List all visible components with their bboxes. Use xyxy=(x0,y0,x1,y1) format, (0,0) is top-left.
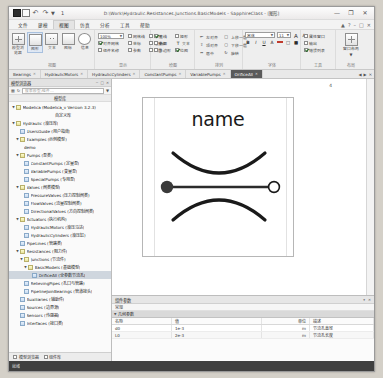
align-top[interactable]: ⇧ 顶对齐 xyxy=(198,41,218,48)
window-controls[interactable]: — ❐ ✕ xyxy=(333,8,372,18)
check-components[interactable]: 组件名称 xyxy=(98,47,124,53)
draw-options[interactable]: 直线 椭圆 多边形 xyxy=(153,32,172,53)
document-tab-strip[interactable]: Bearings ✕ HydraulicMotors ✕ HydraulicCy… xyxy=(9,70,374,79)
tab-modeling[interactable]: 建模 xyxy=(33,20,53,29)
border-button[interactable]: □ xyxy=(285,39,291,45)
bottom-tab-component-library[interactable]: 组件库 xyxy=(43,354,63,360)
tree-icon[interactable]: ▦ xyxy=(11,88,15,93)
chevron-down-icon[interactable]: ▼ xyxy=(51,9,57,17)
tab-simulation[interactable]: 仿真 xyxy=(75,20,95,29)
undo-icon[interactable]: ↶ xyxy=(31,9,40,17)
left-panel-bottom-tabs[interactable]: 模型浏览器 组件库 xyxy=(9,352,111,361)
refresh-icon[interactable]: ↻ xyxy=(17,88,20,93)
fill-button[interactable]: ■ xyxy=(293,39,299,45)
doc-tab-orificeall[interactable]: OrificeAll ✕ xyxy=(231,70,263,78)
tree-item[interactable]: ▼Hydraulic (液压库) xyxy=(9,119,111,127)
button-window-layout[interactable]: 窗口布局 ▼ xyxy=(340,32,362,57)
tab-view[interactable]: 视图 xyxy=(53,20,75,29)
tree-item[interactable]: ▼BasicModels (基础模型) xyxy=(9,263,111,271)
color-swatch-icon[interactable] xyxy=(277,41,283,43)
font-row-2[interactable]: B I U A □ ■ xyxy=(245,39,299,45)
display-options-2[interactable]: 网格线 坐标 参数 xyxy=(127,32,146,53)
tree-item[interactable]: ▼Valves (阀类模型) xyxy=(9,183,111,191)
doc-tab-constantpumps[interactable]: ConstantPumps ✕ xyxy=(140,70,186,78)
font-row-1[interactable]: 宋体 ▼ 11 ▼ A A xyxy=(245,32,307,38)
panel-minimize-icon[interactable]: − xyxy=(96,81,99,85)
tree-item[interactable]: PipeLines (管路类) xyxy=(9,239,111,247)
toggle-error-list[interactable]: 错误列表 xyxy=(304,47,325,53)
maximize-button[interactable]: ❐ xyxy=(347,8,355,18)
button-info-view[interactable]: 信息 xyxy=(78,32,92,51)
check-align-grid[interactable]: 对齐网格 xyxy=(98,40,124,46)
bold-button[interactable]: B xyxy=(245,39,251,45)
font-size-combo[interactable]: 11 ▼ xyxy=(277,32,291,38)
chevron-down-icon[interactable]: ▼ xyxy=(350,53,353,58)
tree-item[interactable]: 自定义库 xyxy=(9,111,111,119)
italic-button[interactable]: I xyxy=(253,39,259,45)
draw-ellipse[interactable]: 椭圆 xyxy=(154,40,171,46)
close-icon[interactable]: ✕ xyxy=(255,72,258,76)
tree-item[interactable]: PressureValves (压力控制阀类) xyxy=(9,191,111,199)
properties-rows[interactable]: d01e-3m节流孔直径L02e-3m节流孔长度 xyxy=(112,325,374,339)
check-gridlines[interactable]: 网格线 xyxy=(128,33,145,39)
button-model-browser[interactable]: 模型浏览器 xyxy=(11,32,25,55)
tree-item[interactable]: HydraulicMotors (液压马达) xyxy=(9,223,111,231)
properties-controls[interactable]: ▾ ✕ xyxy=(363,298,371,302)
doc-tab-variablepumps[interactable]: VariablePumps ✕ xyxy=(186,70,230,78)
chevron-down-icon[interactable]: ▼ xyxy=(114,312,116,316)
panel-close-icon[interactable]: ✕ xyxy=(106,81,109,85)
document-tab-nav[interactable]: ◀ ▶ ✕ xyxy=(356,70,374,78)
diagram-canvas[interactable]: 4 name xyxy=(112,79,374,295)
close-icon[interactable]: ✕ xyxy=(179,72,182,76)
quick-access-toolbar[interactable]: ↶ ↷ ▼ 1 xyxy=(11,9,64,17)
tree-item[interactable]: Sources (边界源) xyxy=(9,303,111,311)
tree-item[interactable]: ▼Pumps (泵类) xyxy=(9,151,111,159)
font-family-combo[interactable]: 宋体 ▼ xyxy=(245,32,275,38)
save-icon[interactable] xyxy=(22,9,30,17)
tree-item[interactable]: ▼Modelica (Modelica_v Version 3.2.3) xyxy=(9,103,111,111)
tree-item[interactable]: UsersGuide (用户指南) xyxy=(9,127,111,135)
property-value[interactable]: 1e-3 xyxy=(172,325,262,331)
tree-item[interactable]: FlowValves (流量控制阀类) xyxy=(9,199,111,207)
search-input[interactable]: 搜索模型/组件... xyxy=(22,88,104,94)
minimize-button[interactable]: — xyxy=(333,8,341,18)
tab-analysis[interactable]: 分析 xyxy=(95,20,115,29)
draw-options-2[interactable]: 矩形 T 文本 位图 xyxy=(174,32,191,53)
model-tree[interactable]: ▼Modelica (Modelica_v Version 3.2.3)自定义库… xyxy=(9,102,111,352)
draw-polygon[interactable]: 多边形 xyxy=(154,47,171,53)
model-browser-controls[interactable]: − □ ✕ xyxy=(96,81,109,85)
properties-collapse-icon[interactable]: ▾ xyxy=(363,298,365,302)
close-icon[interactable]: ✕ xyxy=(33,72,36,76)
align-left[interactable]: ⇤ 左对齐 xyxy=(198,33,218,40)
check-params[interactable]: 参数 xyxy=(128,47,145,53)
close-button[interactable]: ✕ xyxy=(361,8,369,18)
align-center[interactable]: ↔ 居中 xyxy=(198,49,218,56)
doc-tab-hydraulicmotors[interactable]: HydraulicMotors ✕ xyxy=(41,70,88,78)
property-value[interactable]: 2e-3 xyxy=(172,332,262,338)
tab-next-icon[interactable]: ▶ xyxy=(364,72,367,77)
properties-close-icon[interactable]: ✕ xyxy=(368,298,371,302)
font-color-button[interactable]: A xyxy=(269,39,275,45)
ribbon-minimize-icon[interactable]: – xyxy=(354,22,357,28)
orifice-symbol[interactable] xyxy=(143,98,295,258)
property-row[interactable]: d01e-3m节流孔直径 xyxy=(112,325,374,332)
panel-float-icon[interactable]: □ xyxy=(101,81,104,85)
close-icon[interactable]: ✕ xyxy=(80,72,83,76)
tab-tools[interactable]: 工具 xyxy=(115,20,135,29)
tree-item[interactable]: RelievingPipes (孔口与管路) xyxy=(9,279,111,287)
model-browser-toolbar[interactable]: ▦ ↻ 搜索模型/组件... ▼ xyxy=(9,87,111,95)
toggle-output-window[interactable]: 输出 xyxy=(304,40,325,46)
check-coords[interactable]: 坐标 xyxy=(128,40,145,46)
ribbon-restore-icon[interactable]: □ xyxy=(359,22,364,28)
zoom-combo[interactable]: 100% ▼ xyxy=(98,33,124,39)
tree-item[interactable]: DirectionalValves (方向控制阀类) xyxy=(9,207,111,215)
property-row[interactable]: L02e-3m节流孔长度 xyxy=(112,332,374,339)
doc-tab-hydrauliccylinders[interactable]: HydraulicCylinders ✕ xyxy=(88,70,140,78)
draw-text[interactable]: T 文本 xyxy=(175,40,190,46)
ribbon-tab-strip[interactable]: 文件 建模 视图 仿真 分析 工具 帮助 ▲ ? – □ ✕ xyxy=(9,20,374,30)
tree-item[interactable]: Sensors (传感器) xyxy=(9,311,111,319)
arrange-col-1[interactable]: ⇤ 左对齐 ⇧ 顶对齐 ↔ 居中 xyxy=(197,32,219,56)
grow-font-button[interactable]: A xyxy=(293,32,299,38)
tree-item[interactable]: OrificeAll (全参数节流孔) xyxy=(9,271,111,279)
component-diagram[interactable]: name xyxy=(142,97,294,257)
